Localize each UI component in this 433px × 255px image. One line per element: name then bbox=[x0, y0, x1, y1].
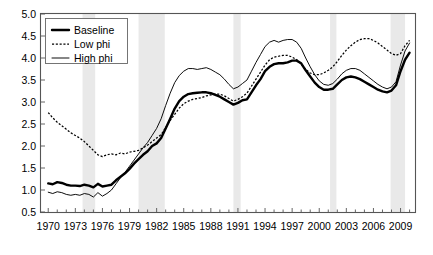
x-tick-label: 1994 bbox=[253, 220, 277, 232]
recession-band bbox=[330, 14, 336, 212]
y-axis-labels: 0.51.01.52.02.53.03.54.04.55.0 bbox=[21, 8, 36, 218]
recession-band bbox=[233, 14, 240, 212]
x-tick-label: 1982 bbox=[145, 220, 169, 232]
line-chart: 0.51.01.52.02.53.03.54.04.55.0 197019731… bbox=[0, 0, 433, 255]
y-tick-label: 2.0 bbox=[21, 140, 36, 152]
legend-label-baseline: Baseline bbox=[74, 24, 114, 36]
x-tick-label: 2006 bbox=[362, 220, 386, 232]
y-tick-label: 4.5 bbox=[21, 30, 36, 42]
legend-label-high-phi: High phi bbox=[74, 52, 113, 64]
recession-bands-layer bbox=[83, 14, 406, 212]
x-axis-labels: 1970197319761979198219851988199119941997… bbox=[37, 220, 413, 232]
x-tick-label: 1985 bbox=[172, 220, 196, 232]
recession-band bbox=[139, 14, 165, 212]
y-tick-label: 5.0 bbox=[21, 8, 36, 20]
y-tick-label: 2.5 bbox=[21, 118, 36, 130]
x-tick-label: 1979 bbox=[118, 220, 142, 232]
x-tick-label: 2009 bbox=[389, 220, 413, 232]
x-tick-label: 1970 bbox=[37, 220, 61, 232]
chart-container: 0.51.01.52.02.53.03.54.04.55.0 197019731… bbox=[0, 0, 433, 255]
y-tick-label: 1.5 bbox=[21, 162, 36, 174]
y-tick-label: 4.0 bbox=[21, 52, 36, 64]
x-tick-label: 1988 bbox=[199, 220, 223, 232]
y-tick-label: 0.5 bbox=[21, 206, 36, 218]
legend-label-low-phi: Low phi bbox=[74, 38, 110, 50]
x-tick-label: 2000 bbox=[308, 220, 332, 232]
x-tick-label: 2003 bbox=[335, 220, 359, 232]
series-line-baseline bbox=[48, 53, 409, 188]
x-tick-label: 1973 bbox=[64, 220, 88, 232]
x-tick-label: 1976 bbox=[91, 220, 115, 232]
x-tick-label: 1997 bbox=[280, 220, 304, 232]
recession-band bbox=[391, 14, 405, 212]
y-tick-label: 3.0 bbox=[21, 96, 36, 108]
y-tick-label: 3.5 bbox=[21, 74, 36, 86]
chart-legend: BaselineLow phiHigh phi bbox=[46, 19, 128, 64]
y-tick-label: 1.0 bbox=[21, 184, 36, 196]
x-tick-label: 1991 bbox=[226, 220, 250, 232]
